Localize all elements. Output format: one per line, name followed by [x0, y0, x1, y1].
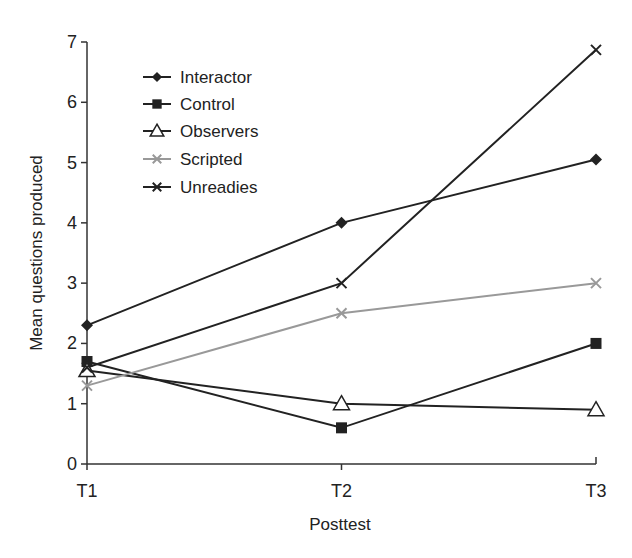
- diamond-marker: [590, 154, 602, 166]
- y-tick-label: 6: [67, 92, 77, 112]
- legend-label: Interactor: [180, 68, 252, 87]
- diamond-marker: [336, 217, 348, 229]
- diamond-marker: [152, 72, 162, 82]
- legend-item-unreadies: Unreadies: [143, 178, 258, 197]
- y-tick-label: 4: [67, 213, 77, 233]
- y-tick-label: 0: [67, 454, 77, 474]
- x-marker: [591, 45, 601, 55]
- legend-label: Unreadies: [180, 178, 258, 197]
- series-control: [87, 343, 596, 427]
- line-chart: 01234567T1T2T3 InteractorControlObserver…: [0, 0, 632, 558]
- series-line: [87, 343, 596, 427]
- legend: InteractorControlObserversScriptedUnread…: [143, 68, 258, 197]
- legend-label: Observers: [180, 122, 258, 141]
- series-line: [87, 283, 596, 385]
- square-marker: [336, 422, 347, 433]
- y-axis-title: Mean questions produced: [27, 155, 46, 351]
- series-unreadies: [87, 50, 596, 368]
- series-line: [87, 50, 596, 368]
- x-axis-title: Posttest: [309, 515, 371, 534]
- y-tick-label: 7: [67, 32, 77, 52]
- x-tick-label: T1: [76, 481, 97, 501]
- x-tick-label: T3: [585, 481, 606, 501]
- series-scripted: [87, 283, 596, 385]
- legend-item-interactor: Interactor: [143, 68, 252, 87]
- square-marker: [152, 99, 161, 108]
- legend-item-control: Control: [143, 95, 235, 114]
- x-tick-label: T2: [331, 481, 352, 501]
- legend-item-scripted: Scripted: [143, 150, 242, 169]
- y-tick-label: 5: [67, 153, 77, 173]
- series-line: [87, 160, 596, 326]
- diamond-marker: [81, 319, 93, 331]
- series-markers-control: [82, 338, 602, 433]
- legend-item-observers: Observers: [143, 122, 258, 141]
- legend-label: Scripted: [180, 150, 242, 169]
- legend-label: Control: [180, 95, 235, 114]
- y-tick-label: 2: [67, 333, 77, 353]
- series-interactor: [87, 160, 596, 326]
- square-marker: [591, 338, 602, 349]
- chart-canvas: 01234567T1T2T3 InteractorControlObserver…: [0, 0, 632, 558]
- series-markers-interactor: [81, 154, 602, 332]
- x-marker: [337, 278, 347, 288]
- y-tick-label: 3: [67, 273, 77, 293]
- y-tick-label: 1: [67, 394, 77, 414]
- series-markers-unreadies: [82, 45, 601, 373]
